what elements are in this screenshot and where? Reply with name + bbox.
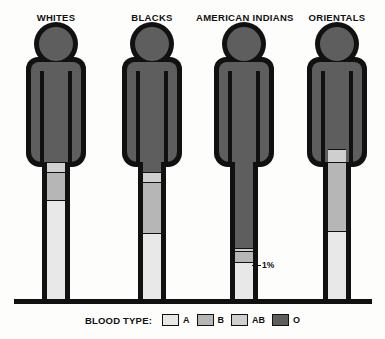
segment-o — [143, 147, 161, 172]
figure-arm-gap-right — [164, 71, 168, 167]
segment-divider — [235, 262, 253, 263]
segment-ab — [328, 149, 346, 162]
segment-b — [143, 182, 161, 233]
segment-divider — [328, 162, 346, 163]
figure-legs-fill: 4%11%40% — [47, 147, 65, 302]
group-american-indians: AMERICAN INDIANS1%79%4%16% — [196, 0, 292, 305]
group-label: AMERICAN INDIANS — [196, 12, 292, 23]
figure-head — [320, 27, 354, 61]
segment-divider — [143, 233, 161, 234]
callout-leader-line — [252, 265, 261, 266]
segment-a — [235, 262, 253, 302]
figure-arm-gap-right — [349, 71, 353, 167]
legend-item-ab: AB — [231, 314, 265, 326]
figure-arm-gap-right — [256, 71, 260, 167]
segment-divider — [47, 162, 65, 163]
legend-item-o: O — [272, 314, 300, 326]
figure-arm-gap-left — [228, 71, 232, 167]
group-blacks: BLACKS49%4%20%27% — [104, 0, 200, 305]
segment-divider — [235, 248, 253, 249]
segment-o — [235, 147, 253, 248]
legend: BLOOD TYPE: ABABO — [0, 312, 385, 328]
legend-title: BLOOD TYPE: — [85, 315, 152, 326]
segment-b — [328, 162, 346, 231]
figure-legs-fill: 4%20%27% — [143, 147, 161, 302]
legend-swatch-b — [197, 314, 214, 326]
legend-swatch-o — [272, 314, 289, 326]
segment-a — [143, 233, 161, 302]
segment-divider — [47, 200, 65, 201]
segment-divider — [47, 172, 65, 173]
legend-items: ABABO — [162, 314, 300, 326]
figure-head — [227, 27, 261, 61]
legend-item-b: B — [197, 314, 225, 326]
figure-arm-gap-left — [40, 71, 44, 167]
segment-divider — [328, 149, 346, 150]
segment-ab — [143, 172, 161, 182]
group-label: ORIENTALS — [289, 12, 385, 23]
segment-divider — [235, 251, 253, 252]
segment-divider — [143, 182, 161, 183]
legend-item-a: A — [162, 314, 190, 326]
legend-label-ab: AB — [252, 315, 265, 325]
segment-o — [47, 147, 65, 162]
segment-ab — [47, 162, 65, 172]
segment-a — [47, 200, 65, 302]
group-label: BLACKS — [104, 12, 200, 23]
pictogram-figure: 45%4%11%40% — [8, 27, 104, 302]
legend-label-b: B — [218, 315, 225, 325]
figure-legs-fill: 79%4%16% — [235, 147, 253, 302]
legend-swatch-a — [162, 314, 179, 326]
pictogram-figure: 1%79%4%16% — [196, 27, 292, 302]
figure-legs-fill: 5%27%28% — [328, 147, 346, 302]
segment-callout-label: 1% — [252, 260, 274, 270]
figure-head — [135, 27, 169, 61]
figure-arm-gap-left — [136, 71, 140, 167]
group-label: WHITES — [8, 12, 104, 23]
group-orientals: ORIENTALS40%5%27%28% — [289, 0, 385, 305]
group-whites: WHITES45%4%11%40% — [8, 0, 104, 305]
infographic-canvas: WHITES45%4%11%40%BLACKS49%4%20%27%AMERIC… — [0, 0, 385, 339]
pictogram-figure: 49%4%20%27% — [104, 27, 200, 302]
segment-divider — [328, 231, 346, 232]
legend-label-o: O — [293, 315, 300, 325]
segment-b — [47, 172, 65, 200]
figure-arm-gap-left — [321, 71, 325, 167]
pictogram-figure: 40%5%27%28% — [289, 27, 385, 302]
legend-swatch-ab — [231, 314, 248, 326]
figure-head — [39, 27, 73, 61]
legend-label-a: A — [183, 315, 190, 325]
segment-divider — [143, 172, 161, 173]
segment-a — [328, 231, 346, 302]
ground-baseline — [14, 299, 372, 304]
figure-arm-gap-right — [68, 71, 72, 167]
segment-b — [235, 251, 253, 261]
